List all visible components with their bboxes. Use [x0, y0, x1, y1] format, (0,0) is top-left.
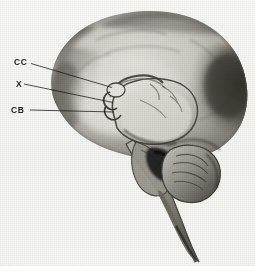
photographic-plate: CC X CB: [0, 0, 255, 268]
figure-root: CC X CB: [0, 0, 255, 276]
brain-sagittal-section-illustration: [0, 0, 255, 268]
label-x: X: [16, 80, 22, 89]
label-cb: CB: [11, 106, 24, 115]
label-cc: CC: [14, 58, 27, 67]
bottom-margin: [0, 266, 255, 276]
